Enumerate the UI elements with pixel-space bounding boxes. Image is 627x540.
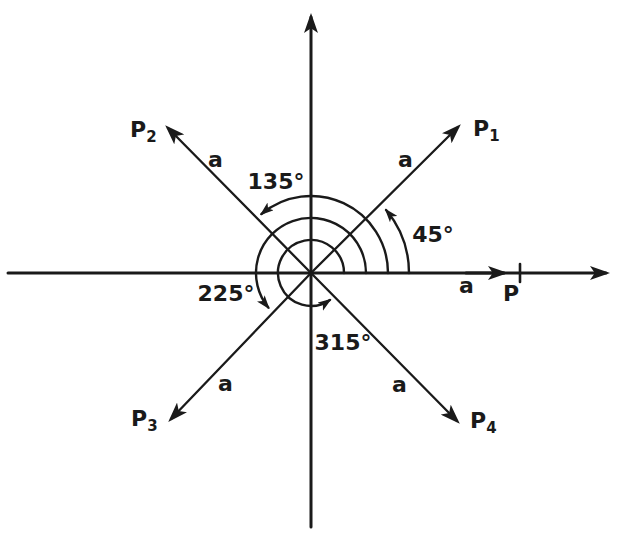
vector-p1-magnitude-label: a <box>398 147 413 172</box>
vector-p2 <box>168 128 311 273</box>
angle-45-label: 45° <box>412 222 454 247</box>
vector-p1-label-base: P <box>473 116 489 141</box>
diagram-canvas: P1 P2 P3 P4 a a a a a 45° 135° 225° 315°… <box>0 0 627 540</box>
angle-225-label: 225° <box>198 281 255 306</box>
vector-p4-label-base: P <box>470 408 486 433</box>
vector-p2-magnitude-label: a <box>208 147 223 172</box>
vector-p1-label-sub: 1 <box>489 127 499 145</box>
point-p-label: P <box>503 281 519 306</box>
vector-p4-label-sub: 4 <box>486 419 496 437</box>
vector-p2-label-base: P <box>130 117 146 142</box>
vector-p3-magnitude-label: a <box>218 371 233 396</box>
vector-angle-diagram: P1 P2 P3 P4 a a a a a 45° 135° 225° 315°… <box>0 0 627 540</box>
angle-arc-45 <box>386 210 409 273</box>
vector-p1-label: P1 <box>473 116 500 145</box>
vector-p3-label-sub: 3 <box>147 417 157 435</box>
vector-p2-label: P2 <box>130 117 157 146</box>
pole-distance-label: a <box>459 273 474 298</box>
vector-p4-label: P4 <box>470 408 497 437</box>
vector-p4-magnitude-label: a <box>392 372 407 397</box>
vector-p3-label-base: P <box>131 406 147 431</box>
vector-p2-label-sub: 2 <box>146 128 156 146</box>
angle-135-label: 135° <box>248 169 305 194</box>
vector-p3-label: P3 <box>131 406 158 435</box>
angle-315-label: 315° <box>315 330 372 355</box>
